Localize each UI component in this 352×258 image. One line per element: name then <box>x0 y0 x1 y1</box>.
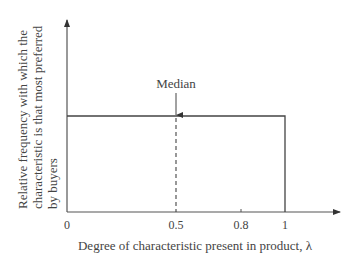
x-axis-label: Degree of characteristic present in prod… <box>78 238 313 253</box>
x-tick-label: 0.8 <box>234 218 249 232</box>
chart: Median 0 0.5 0.8 1 Degree of characteris… <box>0 0 352 258</box>
median-label: Median <box>156 76 196 91</box>
x-tick-label: 1 <box>282 218 288 232</box>
y-axis-label-line-2: characteristic is that most preferred <box>30 25 45 209</box>
x-tick-label: 0 <box>64 218 70 232</box>
x-tick-label: 0.5 <box>169 218 184 232</box>
y-axis-label-line-1: Relative frequency with which the <box>15 30 30 209</box>
y-axis-label-line-3: by buyers <box>45 158 60 209</box>
